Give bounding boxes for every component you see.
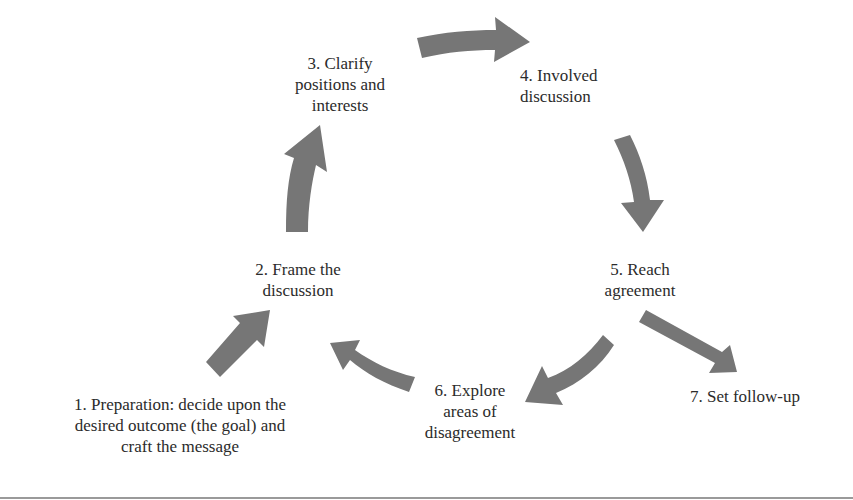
arrow-step5-to-step7-icon [639, 310, 737, 373]
bottom-divider [0, 497, 853, 499]
arrow-step6-to-step2-icon [330, 340, 415, 392]
arrow-step1-to-step2-icon [206, 310, 270, 377]
step-6-explore-disagreement-label: 6. Explore areas of disagreement [410, 380, 530, 443]
step-4-involved-discussion-label: 4. Involved discussion [520, 65, 630, 107]
arrow-step5-to-step6-icon [525, 335, 614, 405]
step-7-set-follow-up-label: 7. Set follow-up [670, 386, 820, 407]
step-3-clarify-positions-label: 3. Clarify positions and interests [270, 53, 410, 116]
step-1-preparation-label: 1. Preparation: decide upon the desired … [30, 394, 330, 457]
step-5-reach-agreement-label: 5. Reach agreement [585, 259, 695, 301]
arrow-step3-to-step4-icon [417, 17, 530, 62]
arrow-step4-to-step5-icon [614, 135, 664, 232]
step-2-frame-discussion-label: 2. Frame the discussion [228, 259, 368, 301]
arrow-step2-to-step3-icon [284, 125, 327, 232]
negotiation-cycle-diagram: 1. Preparation: decide upon the desired … [0, 0, 853, 500]
